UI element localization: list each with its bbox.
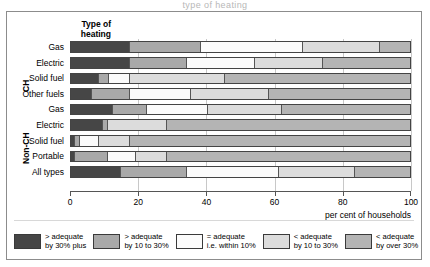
bar-segment [146, 105, 207, 115]
legend-label-line1: < adequate [376, 232, 418, 241]
bar-segment [71, 74, 98, 84]
bar-segment [107, 152, 136, 162]
bar-row: All types [7, 165, 421, 181]
y-axis-title-line2: heating [31, 29, 111, 39]
x-tick-label: 100 [404, 197, 418, 207]
bar-row: Other fuels [7, 87, 421, 103]
bar-segment [129, 136, 410, 146]
bar-row-label: Electric [7, 120, 64, 131]
bar-segment [200, 42, 302, 52]
chart-frame: Type of heating CH Non-CH GasElectricSol… [6, 11, 422, 260]
bar-segment [129, 42, 200, 52]
bar-segment [74, 152, 106, 162]
bar-row: Gas [7, 40, 421, 56]
x-tick-label: 40 [202, 197, 211, 207]
legend-label-line1: < adequate [294, 232, 338, 241]
legend-label-line1: = adequate [207, 232, 256, 241]
legend-swatch [14, 234, 41, 249]
legend-label-line2: by 10 to 30% [294, 241, 338, 250]
legend-label-line1: > adequate [45, 232, 86, 241]
bar-row-label: Portable [7, 151, 64, 162]
y-axis-title-line1: Type of [31, 19, 111, 29]
x-tick-label: 80 [338, 197, 347, 207]
bar-segment [107, 120, 166, 130]
bar-segment [207, 105, 282, 115]
bar-segment [166, 152, 410, 162]
legend-swatch [176, 234, 203, 249]
bar-segment [129, 89, 190, 99]
legend-swatch [345, 234, 372, 249]
bar-segment [254, 58, 322, 68]
legend-label-line2: by 10 to 30% [124, 241, 168, 250]
bar-segment [379, 42, 410, 52]
bar-segment [71, 120, 102, 130]
bar-row-label: All types [7, 167, 64, 178]
bar-segment [71, 167, 120, 177]
bar-row-label: Solid fuel [7, 73, 64, 84]
legend-label: > adequateby 30% plus [45, 232, 86, 251]
legend-item[interactable]: > adequateby 10 to 30% [93, 232, 168, 251]
bar-row: Electric [7, 56, 421, 72]
legend-label-line2: by over 30% [376, 241, 418, 250]
bar-segment [322, 58, 410, 68]
legend-item[interactable]: < adequateby 10 to 30% [263, 232, 338, 251]
legend-label: = adequatei.e. within 10% [207, 232, 256, 251]
bar-segment [71, 89, 91, 99]
stacked-bar [70, 166, 411, 178]
x-axis-tick-labels: 020406080100 [7, 197, 421, 209]
bar-segment [91, 89, 128, 99]
legend-swatch [93, 234, 120, 249]
bar-segment [281, 105, 410, 115]
bar-segment [186, 167, 278, 177]
stacked-bar [70, 104, 411, 116]
bar-segment [129, 74, 224, 84]
x-tick-label: 60 [270, 197, 279, 207]
bar-segment [79, 136, 98, 146]
bar-row: Gas [7, 102, 421, 118]
stacked-bar [70, 135, 411, 147]
x-tick-label: 0 [68, 197, 73, 207]
bar-row: Solid fuel [7, 71, 421, 87]
legend-swatch [263, 234, 290, 249]
bar-segment [71, 58, 129, 68]
bar-segment [98, 74, 108, 84]
legend-label-line1: > adequate [124, 232, 168, 241]
bar-segment [120, 167, 186, 177]
bar-row: Solid fuel [7, 134, 421, 150]
bar-row: Portable [7, 149, 421, 165]
y-axis-title: Type of heating [31, 19, 111, 39]
legend-label-line2: i.e. within 10% [207, 241, 256, 250]
legend-divider [14, 220, 414, 221]
bar-segment [166, 120, 410, 130]
bar-segment [112, 105, 146, 115]
bar-segment [71, 42, 129, 52]
legend-item[interactable]: > adequateby 30% plus [14, 232, 86, 251]
bar-segment [129, 58, 187, 68]
stacked-bar [70, 119, 411, 131]
legend-item[interactable]: < adequateby over 30% [345, 232, 418, 251]
bar-segment [135, 152, 166, 162]
bar-rows: GasElectricSolid fuelOther fuelsGasElect… [7, 40, 421, 180]
legend-label: > adequateby 10 to 30% [124, 232, 168, 251]
bar-row: Electric [7, 118, 421, 134]
legend: > adequateby 30% plus> adequateby 10 to … [14, 227, 414, 255]
x-tick-label: 20 [133, 197, 142, 207]
bar-segment [108, 74, 128, 84]
bar-segment [71, 105, 112, 115]
bar-row-label: Gas [7, 42, 64, 53]
legend-label: < adequateby over 30% [376, 232, 418, 251]
bar-row-label: Other fuels [7, 89, 64, 100]
stacked-bar [70, 41, 411, 53]
stacked-bar [70, 88, 411, 100]
plot-area: Type of heating CH Non-CH GasElectricSol… [7, 12, 421, 192]
bar-segment [186, 58, 254, 68]
legend-label: < adequateby 10 to 30% [294, 232, 338, 251]
bar-segment [98, 136, 129, 146]
bar-segment [354, 167, 410, 177]
stacked-bar [70, 57, 411, 69]
chart-page: type of heating Type of heating CH Non-C… [0, 0, 430, 267]
bar-segment [268, 89, 410, 99]
legend-item[interactable]: = adequatei.e. within 10% [176, 232, 256, 251]
stacked-bar [70, 151, 411, 163]
x-axis-label: per cent of households [7, 210, 411, 220]
